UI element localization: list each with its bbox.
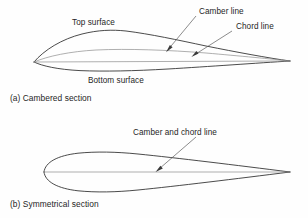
- camber-and-chord-leader-b: [159, 137, 196, 169]
- chord-line-label: Chord line: [236, 22, 274, 31]
- panel-b-caption: (b) Symmetrical section: [10, 199, 99, 209]
- panel-b-symmetrical-section: Camber and chord line (b) Symmetrical se…: [10, 128, 290, 209]
- figure-canvas: Top surface Camber line Chord line Botto…: [0, 0, 308, 218]
- chord-line-leader-a: [195, 31, 232, 55]
- chord-line-a: [34, 61, 290, 62]
- bottom-surface-label: Bottom surface: [88, 76, 144, 85]
- lower-surface-curve-a: [34, 61, 290, 71]
- camber-line-label: Camber line: [199, 7, 244, 16]
- panel-a-caption: (a) Cambered section: [10, 93, 92, 103]
- top-surface-label: Top surface: [72, 18, 115, 27]
- camber-line-leader-a: [169, 16, 196, 49]
- camber-and-chord-line-label: Camber and chord line: [133, 128, 217, 137]
- camber-line-a: [34, 49, 290, 62]
- airfoil-figure: Top surface Camber line Chord line Botto…: [0, 0, 308, 218]
- panel-a-cambered-section: Top surface Camber line Chord line Botto…: [10, 7, 290, 103]
- camber-line-arrowhead-a: [166, 45, 173, 52]
- lower-surface-curve-b: [44, 172, 290, 192]
